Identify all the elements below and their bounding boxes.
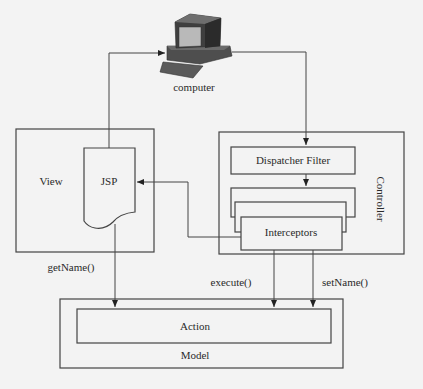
view-label: View <box>39 175 62 187</box>
execute-label: execute() <box>211 276 252 289</box>
edge-jsp-to-computer <box>109 53 165 148</box>
computer-label: computer <box>173 81 215 93</box>
jsp-document <box>84 148 135 228</box>
action-label: Action <box>180 320 210 332</box>
set-name-label: setName() <box>322 276 368 289</box>
get-name-label: getName() <box>47 261 94 274</box>
interceptors-label: Interceptors <box>265 226 318 238</box>
jsp-label: JSP <box>101 175 118 187</box>
controller-label: Controller <box>375 176 387 222</box>
edge-interceptors-to-jsp <box>137 182 241 237</box>
mvc-struts-diagram: computer View JSP getName() Controller D… <box>0 0 423 389</box>
edge-computer-to-dispatcher <box>232 52 306 145</box>
model-label: Model <box>181 349 210 361</box>
dispatcher-filter-label: Dispatcher Filter <box>256 154 331 166</box>
computer-icon <box>160 14 232 78</box>
